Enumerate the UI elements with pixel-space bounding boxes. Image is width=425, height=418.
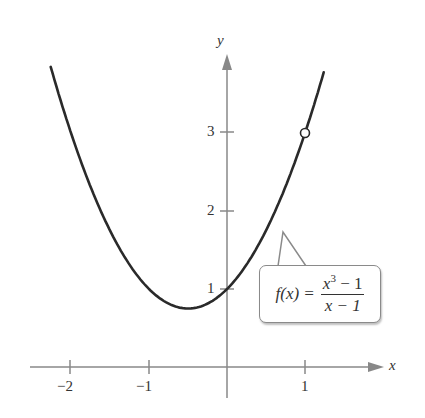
y-tick-label: 2: [207, 202, 215, 219]
callout-fraction: x3 − 1 x − 1: [321, 272, 365, 317]
hole-marker: [301, 129, 310, 138]
function-callout: f(x) = x3 − 1 x − 1: [259, 265, 381, 323]
y-tick-label: 3: [207, 123, 215, 140]
y-axis-arrow-icon: [222, 54, 232, 70]
x-axis-label: x: [389, 357, 396, 374]
x-tick-label: 1: [301, 378, 309, 395]
callout-numerator: x3 − 1: [321, 272, 365, 295]
callout-pointer: [278, 232, 306, 266]
callout-lhs: f(x) =: [276, 284, 315, 304]
x-tick-label: −2: [57, 378, 73, 395]
y-axis-label: y: [217, 32, 224, 49]
x-axis-arrow-icon: [368, 362, 384, 372]
callout-denominator: x − 1: [325, 295, 361, 316]
x-tick-label: −1: [136, 378, 152, 395]
y-tick-label: 1: [207, 280, 215, 297]
